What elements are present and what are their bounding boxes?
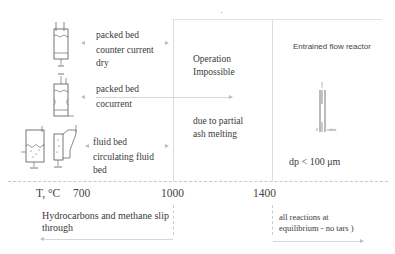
- top-dot: [221, 12, 222, 13]
- low-temp-line2: through: [42, 222, 169, 234]
- particle-size: dp < 100 μm: [289, 155, 340, 168]
- circulating-fluid-bed-icon: [50, 124, 80, 172]
- ash-melting-reason: due to partial ash melting: [193, 115, 243, 141]
- temperature-axis: [8, 181, 388, 182]
- reactor-2-line2: cocurrent: [96, 98, 139, 111]
- arrow-right-icon: [165, 144, 169, 148]
- arrow-right-icon: [360, 239, 364, 243]
- reason-line1: due to partial: [193, 115, 243, 128]
- reactor-3-line1: fluid bed: [93, 136, 154, 149]
- high-temp-arrow-line: [273, 241, 361, 242]
- reactor-3-label: fluid bed circulating fluid bed: [93, 136, 154, 177]
- low-temp-note: Hydrocarbons and methane slip through: [42, 210, 169, 234]
- reactor-3-line3: bed: [93, 164, 154, 177]
- high-temp-line1: all reactions at: [279, 212, 354, 223]
- entrained-flow-region-top: [272, 19, 382, 20]
- reactor-2-label: packed bed cocurrent: [96, 83, 139, 111]
- operation-impossible-line1: Operation: [193, 53, 235, 66]
- entrained-flow-reactor-icon: fl oxidant: [315, 80, 345, 138]
- boundary-1400: [272, 19, 273, 181]
- entrained-flow-title: Entrained flow reactor: [293, 42, 371, 51]
- boundary-1000: [173, 19, 174, 181]
- arrow-left-icon: [85, 144, 89, 148]
- arrow-right-icon: [229, 95, 233, 99]
- packed-bed-cocurrent-icon: [52, 72, 78, 122]
- arrow-left-icon: [81, 41, 85, 45]
- operation-impossible-title: Operation Impossible: [193, 53, 235, 79]
- tick-1400: 1400: [253, 187, 276, 199]
- reactor-3-line2: circulating fluid: [93, 151, 154, 164]
- arrow-right-icon: [165, 41, 169, 45]
- high-temp-note: all reactions at equilibrium - no tars ): [279, 212, 354, 234]
- low-temp-arrow-line: [43, 239, 173, 240]
- tick-700: 700: [73, 187, 90, 199]
- tick-mark-1000: [173, 205, 174, 235]
- packed-bed-countercurrent-icon: [52, 17, 74, 69]
- reactor-1-line3: dry: [96, 57, 154, 70]
- fluid-bed-icon: [20, 124, 50, 172]
- arrow-left-icon: [81, 95, 85, 99]
- axis-label: T, °C: [36, 187, 60, 199]
- tick-1000: 1000: [161, 187, 184, 199]
- tick-mark-1400: [272, 205, 273, 235]
- high-temp-line2: equilibrium - no tars ): [279, 223, 354, 234]
- svg-text:fl: fl: [316, 128, 318, 132]
- operation-impossible-line2: Impossible: [193, 66, 235, 79]
- reactor-1-label: packed bed counter current dry: [96, 29, 154, 70]
- reactor-1-line1: packed bed: [96, 29, 154, 42]
- operation-impossible-region-top: [173, 19, 272, 20]
- reason-line2: ash melting: [193, 128, 243, 141]
- reactor-2-line1: packed bed: [96, 83, 139, 96]
- low-temp-line1: Hydrocarbons and methane slip: [42, 210, 169, 222]
- oxidant-label: oxidant: [327, 128, 336, 132]
- reactor-1-line2: counter current: [96, 44, 154, 57]
